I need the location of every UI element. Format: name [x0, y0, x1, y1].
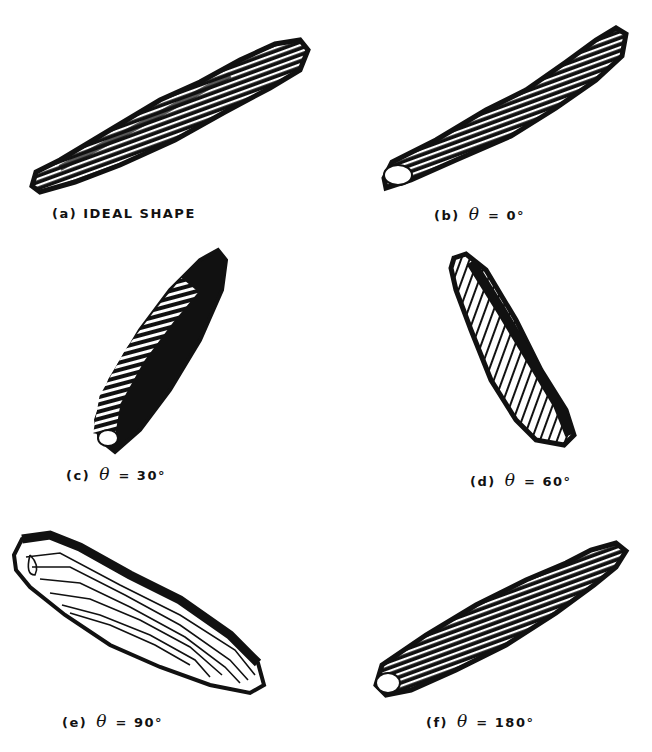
- panel-label: (d): [470, 474, 496, 489]
- equals: =: [524, 474, 536, 489]
- caption-a: (a) IDEAL SHAPE: [52, 206, 196, 221]
- panel-label: (f): [426, 715, 448, 730]
- ideal-shape-rendering: [0, 0, 326, 200]
- panel-e: (e) θ = 90°: [0, 495, 326, 752]
- panel-label: (c): [66, 468, 90, 483]
- theta-symbol: θ: [99, 464, 109, 484]
- theta-0-rendering: [326, 0, 652, 200]
- theta-180-rendering: [326, 495, 652, 705]
- theta-symbol: θ: [505, 470, 515, 490]
- panel-text: IDEAL SHAPE: [83, 206, 196, 221]
- angle-value: 60°: [542, 474, 571, 489]
- panel-f: (f) θ = 180°: [326, 495, 652, 752]
- panel-label: (e): [62, 715, 87, 730]
- panel-a: (a) IDEAL SHAPE: [0, 0, 326, 230]
- theta-30-rendering: [0, 230, 326, 465]
- theta-symbol: θ: [96, 711, 106, 731]
- caption-e: (e) θ = 90°: [62, 711, 163, 731]
- angle-value: 30°: [137, 468, 166, 483]
- angle-value: 0°: [506, 208, 525, 223]
- equals: =: [116, 715, 128, 730]
- theta-90-rendering: [0, 495, 326, 705]
- angle-value: 180°: [495, 715, 535, 730]
- equals: =: [118, 468, 130, 483]
- angle-value: 90°: [134, 715, 163, 730]
- theta-60-rendering: [326, 230, 652, 465]
- caption-f: (f) θ = 180°: [426, 711, 534, 731]
- caption-d: (d) θ = 60°: [470, 470, 572, 490]
- panel-label: (b): [434, 208, 460, 223]
- caption-b: (b) θ = 0°: [434, 204, 525, 224]
- caption-c: (c) θ = 30°: [66, 464, 166, 484]
- panel-c: (c) θ = 30°: [0, 230, 326, 495]
- equals: =: [476, 715, 488, 730]
- panel-b: (b) θ = 0°: [326, 0, 652, 230]
- theta-symbol: θ: [457, 711, 467, 731]
- equals: =: [488, 208, 500, 223]
- theta-symbol: θ: [469, 204, 479, 224]
- panel-d: (d) θ = 60°: [326, 230, 652, 495]
- panel-label: (a): [52, 206, 77, 221]
